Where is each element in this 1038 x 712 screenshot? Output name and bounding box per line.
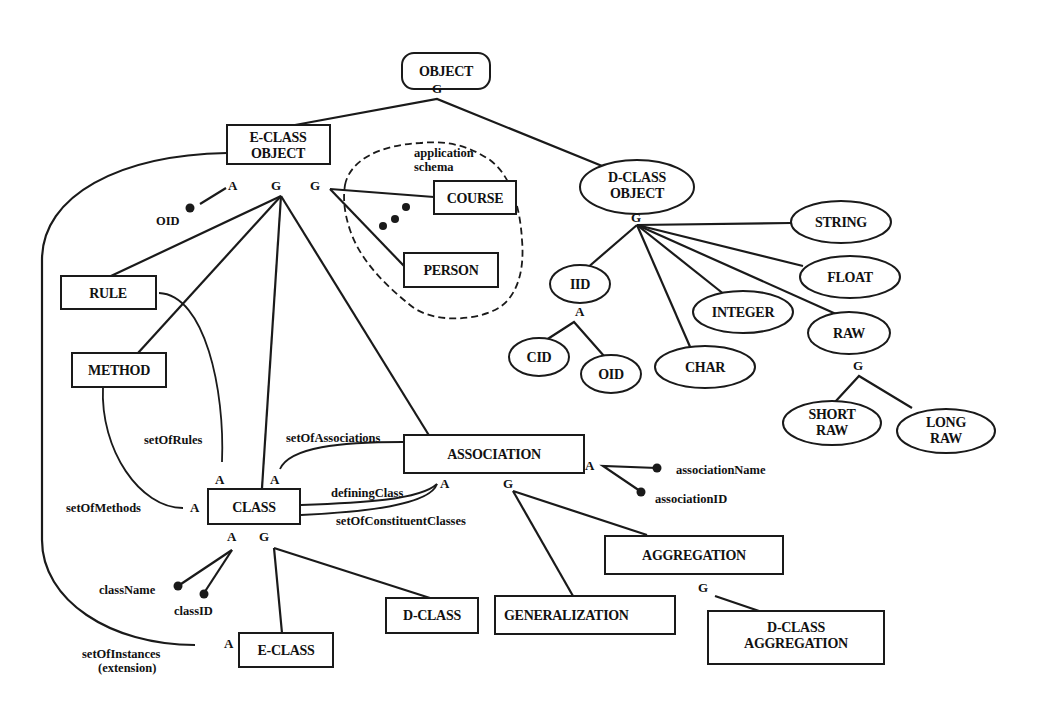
attribute-dot [653,464,662,473]
edge-eclassobject-oid [200,188,226,204]
edge-eclassobject-class [262,196,281,488]
marker-g-eclassobject-2: G [310,178,320,193]
attribute-set-of-instances: setOfInstances [82,647,161,661]
attribute-oid: OID [156,214,180,228]
node-float[interactable]: FLOAT [800,256,900,298]
svg-text:OBJECT: OBJECT [251,146,306,161]
node-long-raw[interactable]: LONG RAW [897,409,995,453]
edge-association-aggregation [513,491,647,535]
edge-eclassobject-rule [111,196,281,276]
node-string[interactable]: STRING [791,201,891,243]
svg-text:RAW: RAW [930,431,962,446]
edge-eclassobject-association [281,196,430,437]
svg-text:FLOAT: FLOAT [827,270,874,285]
node-eclass-object[interactable]: E-CLASS OBJECT [227,125,330,164]
edge-set-of-associations [280,442,403,469]
marker-g-raw: G [853,358,863,373]
svg-text:INTEGER: INTEGER [712,305,776,320]
node-eclass[interactable]: E-CLASS [239,633,333,667]
svg-text:ASSOCIATION: ASSOCIATION [447,447,541,462]
svg-text:AGGREGATION: AGGREGATION [642,548,746,563]
svg-text:METHOD: METHOD [88,363,150,378]
marker-a-class-methods: A [190,500,200,515]
node-association[interactable]: ASSOCIATION [404,435,584,473]
edge-eclassobject-person [330,189,404,266]
svg-text:IID: IID [570,277,590,292]
marker-g-class: G [259,529,269,544]
svg-text:CLASS: CLASS [232,500,276,515]
marker-a-class-rules: A [215,472,225,487]
svg-text:E-CLASS: E-CLASS [257,643,315,658]
svg-text:OID: OID [598,367,624,382]
svg-text:RULE: RULE [89,286,127,301]
edge-dclassobject-char [637,225,691,349]
svg-text:CHAR: CHAR [685,360,726,375]
ellipsis-dot [379,222,387,230]
marker-a-eclassobject: A [228,178,238,193]
svg-text:OBJECT: OBJECT [419,64,474,79]
edge-class-dclass [274,548,430,598]
node-cid[interactable]: CID [509,338,569,376]
node-dclass-aggregation[interactable]: D-CLASS AGGREGATION [708,611,884,664]
application-schema-label-1: application [414,146,474,160]
svg-text:D-CLASS: D-CLASS [608,170,666,185]
attribute-set-of-instances-note: (extension) [98,661,156,675]
node-integer[interactable]: INTEGER [693,291,793,333]
attribute-dot [186,204,195,213]
svg-text:STRING: STRING [815,215,867,230]
attribute-class-name: className [99,583,156,597]
node-dclass[interactable]: D-CLASS [386,598,478,633]
application-schema-label-2: schema [414,160,454,174]
marker-a-association-right: A [585,458,595,473]
attribute-dot [174,582,183,591]
attribute-set-of-rules: setOfRules [144,433,202,447]
attribute-set-of-associations: setOfAssociations [286,431,381,445]
node-rule[interactable]: RULE [61,276,156,309]
svg-text:D-CLASS: D-CLASS [403,608,461,623]
node-method[interactable]: METHOD [72,353,166,387]
ellipsis-dot [402,203,410,211]
node-person[interactable]: PERSON [404,253,498,287]
attribute-dot [637,488,646,497]
svg-text:LONG: LONG [926,415,966,430]
svg-text:D-CLASS: D-CLASS [767,620,825,635]
marker-a-iid: A [575,304,585,319]
class-hierarchy-diagram: application schema OBJECT G E-CLASS OBJE… [0,0,1038,712]
ellipsis-dot [391,215,399,223]
attribute-dot [200,590,209,599]
edge-eclassobject-course [330,189,434,197]
attribute-set-of-constituent-classes: setOfConstituentClasses [336,514,466,528]
marker-g-object: G [432,81,442,96]
marker-g-aggregation: G [698,580,708,595]
attribute-set-of-methods: setOfMethods [66,501,141,515]
edge-association-attrs [603,466,657,491]
marker-g-eclassobject-1: G [271,178,281,193]
edge-class-eclass [274,548,282,633]
svg-text:RAW: RAW [816,423,848,438]
attribute-association-id: associationID [655,492,727,506]
marker-g-dclassobject: G [631,210,641,225]
attribute-defining-class: definingClass [331,486,403,500]
edge-dclassobject-iid [586,225,637,269]
node-iid[interactable]: IID [550,265,610,303]
node-short-raw[interactable]: SHORT RAW [783,401,881,445]
node-oid[interactable]: OID [581,355,641,393]
attribute-class-id: classID [174,604,213,618]
node-object[interactable]: OBJECT [402,53,490,89]
node-generalization[interactable]: GENERALIZATION [495,596,675,634]
svg-text:OBJECT: OBJECT [610,186,665,201]
marker-a-association-bottom: A [440,476,450,491]
node-char[interactable]: CHAR [655,346,755,388]
edge-dclassobject-string [637,223,791,225]
node-aggregation[interactable]: AGGREGATION [605,536,783,574]
marker-a-class-attrs: A [227,529,237,544]
node-course[interactable]: COURSE [434,181,516,214]
node-class[interactable]: CLASS [208,489,300,524]
node-raw[interactable]: RAW [808,312,890,354]
attribute-association-name: associationName [676,463,766,477]
node-dclass-object[interactable]: D-CLASS OBJECT [580,160,694,214]
edge-class-classname [178,550,232,586]
svg-text:GENERALIZATION: GENERALIZATION [504,608,629,623]
svg-text:PERSON: PERSON [424,263,479,278]
svg-text:AGGREGATION: AGGREGATION [744,636,848,651]
